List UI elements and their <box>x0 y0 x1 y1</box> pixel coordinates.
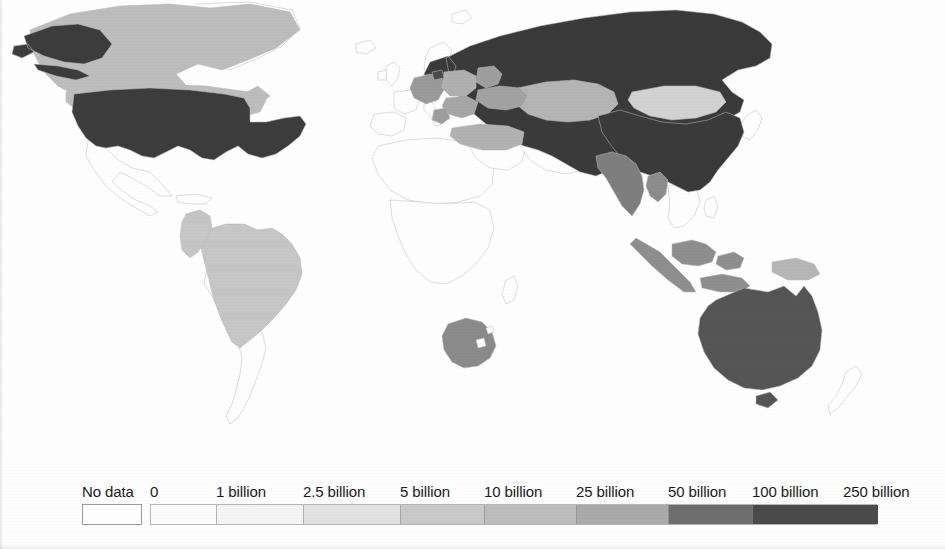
legend-bin-5 <box>577 505 669 524</box>
region-new-zealand <box>828 366 862 414</box>
region-iceland <box>356 40 376 54</box>
legend-bin-7 <box>753 505 878 524</box>
region-brazil <box>200 224 302 348</box>
region-australia <box>698 286 822 408</box>
map-canvas <box>0 0 945 460</box>
legend-label-25-billion: 25 billion <box>576 482 634 501</box>
map-legend: No data01 billion2.5 billion5 billion10 … <box>0 462 945 549</box>
legend-bin-2 <box>304 505 401 524</box>
world-map-svg <box>0 0 945 460</box>
region-poland <box>442 70 476 96</box>
region-indonesia <box>630 238 750 292</box>
legend-gradient-bar <box>150 504 877 525</box>
region-africa-central <box>390 200 494 284</box>
region-ireland <box>378 70 386 80</box>
page-edge-shadow-left <box>0 0 3 549</box>
legend-label-0: 0 <box>150 482 158 501</box>
region-philippines <box>704 196 718 218</box>
legend-label-250-billion: 250 billion <box>843 482 909 501</box>
region-lesotho <box>476 338 486 348</box>
legend-label-2-5-billion: 2.5 billion <box>303 482 365 501</box>
legend-no-data-swatch <box>82 504 142 525</box>
legend-bin-1 <box>217 505 304 524</box>
legend-bin-6 <box>669 505 753 524</box>
legend-label-50-billion: 50 billion <box>668 482 726 501</box>
region-netherlands <box>432 70 444 80</box>
region-south-africa <box>442 318 496 368</box>
region-svalbard <box>452 10 472 24</box>
legend-label-5-billion: 5 billion <box>400 482 450 501</box>
region-bangladesh-myanmar <box>646 172 668 202</box>
region-iberia <box>370 112 406 136</box>
region-papua-new-guinea <box>772 258 820 280</box>
page-edge-shadow-bottom <box>0 545 945 549</box>
legend-label-10-billion: 10 billion <box>484 482 542 501</box>
legend-bar-row <box>0 504 945 526</box>
legend-bin-0 <box>151 505 217 524</box>
legend-label-row: No data01 billion2.5 billion5 billion10 … <box>0 482 945 502</box>
region-madagascar <box>502 276 518 304</box>
legend-label-1-billion: 1 billion <box>216 482 266 501</box>
legend-label-100-billion: 100 billion <box>752 482 818 501</box>
region-caribbean <box>176 194 212 204</box>
region-japan <box>740 110 762 140</box>
region-uk <box>386 62 400 86</box>
legend-bin-4 <box>485 505 577 524</box>
legend-label-no-data: No data <box>82 482 134 501</box>
world-choropleth-figure: No data01 billion2.5 billion5 billion10 … <box>0 0 945 549</box>
legend-bin-3 <box>401 505 485 524</box>
